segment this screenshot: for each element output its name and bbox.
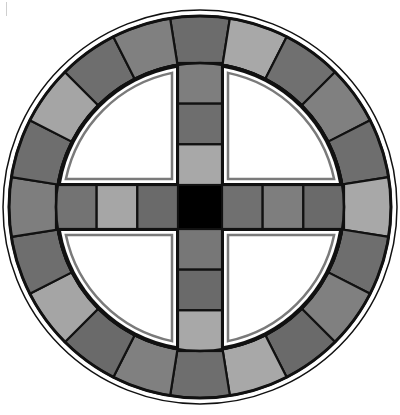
ring-space[interactable] [9,177,58,237]
arm-right-space[interactable] [303,185,344,229]
center-home-square[interactable] [178,185,222,229]
arm-top-space[interactable] [178,144,222,185]
arm-bottom-space[interactable] [178,229,222,270]
arm-right-space[interactable] [222,185,263,229]
arm-left-space[interactable] [137,185,178,229]
ring-space[interactable] [170,349,230,398]
arm-bottom-space[interactable] [178,310,222,351]
ring-space[interactable] [342,177,391,237]
game-board [0,0,400,415]
arm-right-space[interactable] [263,185,304,229]
arm-top-space[interactable] [178,63,222,104]
arm-bottom-space[interactable] [178,270,222,311]
arm-left-space[interactable] [56,185,97,229]
arm-top-space[interactable] [178,104,222,145]
ring-space[interactable] [170,16,230,65]
arm-left-space[interactable] [97,185,138,229]
